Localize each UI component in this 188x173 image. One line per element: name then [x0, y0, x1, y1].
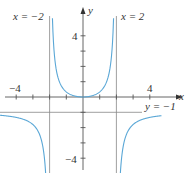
- asymptote-label-right: x = 2: [120, 10, 145, 22]
- curve-left-branch: [0, 115, 46, 173]
- asymptote-label-left: x = −2: [12, 10, 44, 22]
- x-tick-label-neg4: −4: [9, 82, 21, 94]
- curve-branches: [0, 18, 161, 173]
- y-tick-label-neg4: −4: [65, 153, 77, 165]
- asymptote-label-horizontal: y = −1: [144, 100, 176, 112]
- curve-right-branch: [120, 116, 161, 173]
- x-tick-label-4: 4: [147, 82, 153, 94]
- y-axis-arrow-icon: [81, 7, 86, 14]
- y-axis-label: y: [87, 4, 93, 16]
- axes: [5, 7, 183, 170]
- y-tick-label-4: 4: [72, 30, 78, 42]
- function-graph: x = −2 x = 2 y = −1 y x −4 4 4 −4: [0, 0, 188, 173]
- x-axis-label: x: [178, 90, 184, 102]
